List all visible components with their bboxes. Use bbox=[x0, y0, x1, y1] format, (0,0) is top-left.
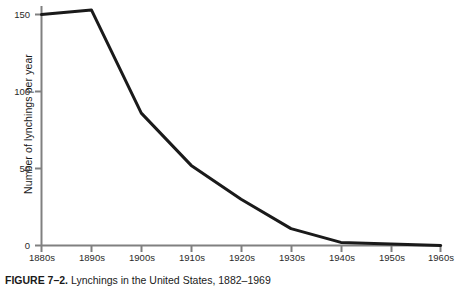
x-tick-label-1900s: 1900s bbox=[119, 252, 165, 263]
x-tick-label-1960s: 1960s bbox=[418, 252, 457, 263]
x-tick-label-1890s: 1890s bbox=[69, 252, 115, 263]
x-tick-label-1950s: 1950s bbox=[369, 252, 415, 263]
figure-container: Number of lynchings per year 0 50 100 15… bbox=[0, 0, 457, 296]
y-axis-title: Number of lynchings per year bbox=[22, 24, 34, 224]
figure-caption-text: Lynchings in the United States, 1882–196… bbox=[68, 274, 271, 286]
x-tick-label-1930s: 1930s bbox=[269, 252, 315, 263]
x-tick-label-1880s: 1880s bbox=[19, 252, 65, 263]
data-series-line bbox=[42, 10, 441, 246]
chart-plot-area: Number of lynchings per year 0 50 100 15… bbox=[0, 0, 457, 262]
x-tick-label-1910s: 1910s bbox=[169, 252, 215, 263]
y-tick-label-50: 50 bbox=[0, 163, 30, 174]
y-axis-ticks bbox=[35, 15, 41, 246]
figure-caption: FIGURE 7–2. Lynchings in the United Stat… bbox=[5, 274, 271, 286]
figure-caption-label: FIGURE 7–2. bbox=[5, 274, 68, 286]
x-tick-label-1920s: 1920s bbox=[219, 252, 265, 263]
y-tick-label-150: 150 bbox=[0, 9, 30, 20]
x-tick-label-1940s: 1940s bbox=[319, 252, 365, 263]
line-chart-svg bbox=[0, 0, 457, 262]
y-tick-label-0: 0 bbox=[0, 240, 30, 251]
y-tick-label-100: 100 bbox=[0, 86, 30, 97]
